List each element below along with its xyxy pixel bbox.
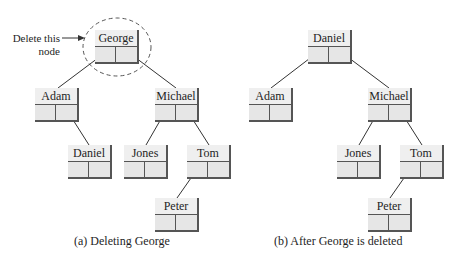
tree-node-daniel: Daniel bbox=[68, 145, 112, 179]
node-label: Tom bbox=[187, 145, 229, 161]
node-label: Jones bbox=[337, 145, 379, 161]
left-link-cell bbox=[249, 105, 270, 120]
node-links bbox=[187, 161, 229, 177]
node-label: Adam bbox=[35, 88, 77, 104]
node-label: Peter bbox=[155, 198, 197, 214]
tree-node-adam: Adam bbox=[35, 88, 79, 122]
node-links bbox=[155, 214, 197, 230]
left-link-cell bbox=[155, 215, 176, 230]
right-link-cell bbox=[176, 215, 197, 230]
left-link-cell bbox=[368, 105, 389, 120]
tree-node-daniel-root: Daniel bbox=[308, 30, 352, 64]
node-links bbox=[368, 104, 410, 120]
node-label: Tom bbox=[400, 145, 442, 161]
node-links bbox=[124, 161, 166, 177]
node-label: Jones bbox=[124, 145, 166, 161]
right-link-cell bbox=[208, 162, 229, 177]
node-label: George bbox=[95, 30, 137, 46]
left-link-cell bbox=[124, 162, 145, 177]
right-link-cell bbox=[389, 105, 410, 120]
node-label: Daniel bbox=[308, 30, 350, 46]
right-link-cell bbox=[116, 47, 137, 62]
left-link-cell bbox=[155, 105, 176, 120]
node-links bbox=[95, 46, 137, 62]
node-label: Michael bbox=[368, 88, 410, 104]
tree-node-michael: Michael bbox=[155, 88, 199, 122]
right-link-cell bbox=[358, 162, 379, 177]
left-link-cell bbox=[95, 47, 116, 62]
tree-node-peter-b: Peter bbox=[368, 198, 412, 232]
left-link-cell bbox=[187, 162, 208, 177]
delete-annotation: Delete this node bbox=[2, 32, 60, 58]
tree-node-jones: Jones bbox=[124, 145, 168, 179]
right-link-cell bbox=[389, 215, 410, 230]
annotation-line-1: Delete this bbox=[2, 32, 60, 45]
node-links bbox=[368, 214, 410, 230]
node-links bbox=[155, 104, 197, 120]
tree-node-michael-b: Michael bbox=[368, 88, 412, 122]
node-label: Daniel bbox=[68, 145, 110, 161]
node-label: Adam bbox=[249, 88, 291, 104]
caption-panel-a: (a) Deleting George bbox=[74, 234, 170, 249]
caption-panel-b: (b) After George is deleted bbox=[274, 234, 402, 249]
node-links bbox=[400, 161, 442, 177]
node-links bbox=[308, 46, 350, 62]
left-link-cell bbox=[308, 47, 329, 62]
right-link-cell bbox=[329, 47, 350, 62]
right-link-cell bbox=[176, 105, 197, 120]
tree-node-adam-b: Adam bbox=[249, 88, 293, 122]
left-link-cell bbox=[68, 162, 89, 177]
left-link-cell bbox=[35, 105, 56, 120]
diagram-canvas: Delete this node George Adam Michael Dan… bbox=[0, 0, 453, 259]
tree-node-george: George bbox=[95, 30, 139, 64]
node-label: Peter bbox=[368, 198, 410, 214]
right-link-cell bbox=[421, 162, 442, 177]
node-links bbox=[68, 161, 110, 177]
right-link-cell bbox=[270, 105, 291, 120]
right-link-cell bbox=[56, 105, 77, 120]
node-links bbox=[249, 104, 291, 120]
left-link-cell bbox=[368, 215, 389, 230]
left-link-cell bbox=[337, 162, 358, 177]
tree-node-tom: Tom bbox=[187, 145, 231, 179]
annotation-line-2: node bbox=[2, 45, 60, 58]
node-links bbox=[35, 104, 77, 120]
tree-node-tom-b: Tom bbox=[400, 145, 444, 179]
left-link-cell bbox=[400, 162, 421, 177]
tree-node-jones-b: Jones bbox=[337, 145, 381, 179]
node-label: Michael bbox=[155, 88, 197, 104]
right-link-cell bbox=[145, 162, 166, 177]
tree-node-peter: Peter bbox=[155, 198, 199, 232]
node-links bbox=[337, 161, 379, 177]
right-link-cell bbox=[89, 162, 110, 177]
